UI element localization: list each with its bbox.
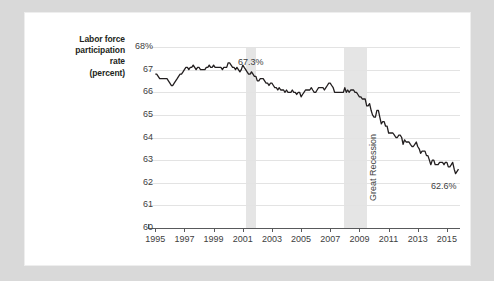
x-tick [389, 228, 390, 232]
y-tick-label: 64 [113, 132, 153, 142]
y-tick-label: 65 [113, 109, 153, 119]
x-tick [272, 228, 273, 232]
x-tick [418, 228, 419, 232]
great-recession-label: Great Recession [368, 134, 378, 201]
peak-value-label: 67.3% [238, 57, 264, 67]
x-tick [359, 228, 360, 232]
y-tick-label: 61 [113, 199, 153, 209]
x-tick [301, 228, 302, 232]
x-tick [330, 228, 331, 232]
plot-area: Great Recession [148, 47, 460, 228]
y-tick-label: 63 [113, 154, 153, 164]
x-tick [155, 228, 156, 232]
x-tick [447, 228, 448, 232]
y-tick-label: 60 [113, 222, 153, 232]
y-axis-title-line-3: rate [37, 56, 125, 67]
x-tick [243, 228, 244, 232]
y-axis-title-line-2: participation [37, 45, 125, 56]
y-axis-title-line-4: (percent) [37, 68, 125, 79]
series-line [148, 47, 460, 228]
x-tick [184, 228, 185, 232]
x-tick-label: 2015 [427, 234, 467, 244]
y-tick-label: 66 [113, 86, 153, 96]
x-tick [214, 228, 215, 232]
y-tick-label: 68% [113, 41, 153, 51]
x-axis-line [148, 228, 460, 229]
y-axis-title: Labor force participation rate (percent) [37, 34, 125, 79]
y-tick-label: 67 [113, 64, 153, 74]
y-axis-title-line-1: Labor force [37, 34, 125, 45]
line-chart: Labor force participation rate (percent)… [25, 13, 470, 265]
y-tick-label: 62 [113, 177, 153, 187]
figure-card: Labor force participation rate (percent)… [25, 13, 470, 265]
latest-value-label: 62.6% [431, 181, 457, 191]
